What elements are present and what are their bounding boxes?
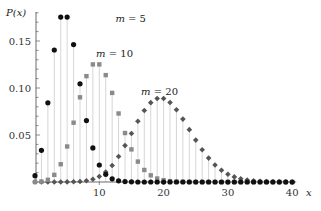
diamond-marker [109,163,115,169]
circle-marker [277,179,282,184]
square-marker [52,173,56,177]
diamond-marker [142,108,148,114]
square-marker [84,74,88,78]
series-label: m = 10 [96,48,133,59]
diamond-marker [90,176,96,182]
diamond-marker [58,179,64,185]
square-marker [97,62,101,66]
circle-marker [245,179,250,184]
circle-marker [142,179,147,184]
square-marker [33,180,37,184]
square-marker [65,144,69,148]
square-marker [59,162,63,166]
circle-marker [71,42,76,47]
x-axis-title: x [306,187,312,198]
circle-marker [116,178,121,183]
diamond-marker [148,100,154,106]
diamond-marker [193,137,199,143]
circle-marker [290,179,295,184]
circle-marker [45,100,50,105]
square-marker [110,91,114,95]
diamond-marker [135,118,141,124]
circle-marker [264,179,269,184]
y-tick-label: 0.15 [9,36,31,47]
square-marker [39,179,43,183]
circle-marker [167,179,172,184]
circle-marker [174,179,179,184]
diamond-marker [212,162,218,168]
circle-marker [219,179,224,184]
diamond-marker [187,127,193,133]
diamond-marker [199,147,205,153]
circle-marker [200,179,205,184]
diamond-marker [129,131,135,137]
square-marker [104,73,108,77]
circle-marker [84,118,89,123]
diamond-marker [122,143,128,149]
square-marker [78,95,82,99]
circle-marker [58,14,63,19]
circle-marker [77,81,82,86]
square-marker [142,168,146,172]
circle-marker [232,179,237,184]
circle-marker [52,47,57,52]
diamond-marker [232,174,238,180]
square-marker [71,120,75,124]
diamond-marker [84,178,90,184]
circle-marker [90,145,95,150]
circle-marker [251,179,256,184]
circle-marker [32,173,37,178]
square-marker [91,62,95,66]
square-marker [149,173,153,177]
y-axis-title: P(x) [5,7,26,18]
circle-marker [39,148,44,153]
x-tick-label: 20 [157,187,170,198]
diamond-marker [51,179,57,185]
square-marker [116,111,120,115]
diamond-marker [77,179,83,185]
y-tick-label: 0.05 [9,130,31,141]
diamond-marker [174,107,180,113]
poisson-chart: 0.050.100.1510203040xP(x)m = 20m = 10m =… [0,0,321,211]
circle-marker [155,179,160,184]
circle-marker [148,179,153,184]
circle-marker [212,179,217,184]
diamond-marker [225,171,231,177]
square-marker [129,147,133,151]
diamond-marker [219,167,225,173]
y-tick-label: 0.10 [9,83,31,94]
diamond-marker [180,116,186,122]
diamond-marker [71,179,77,185]
circle-marker [270,179,275,184]
circle-marker [122,179,127,184]
circle-marker [103,172,108,177]
square-marker [46,178,50,182]
circle-marker [187,179,192,184]
circle-marker [65,14,70,19]
x-tick-label: 30 [222,187,235,198]
circle-marker [180,179,185,184]
circle-marker [110,176,115,181]
circle-marker [97,162,102,167]
x-tick-label: 40 [286,187,299,198]
square-marker [123,131,127,135]
series-label: m = 20 [141,86,178,97]
diamond-marker [167,100,173,106]
circle-marker [129,179,134,184]
square-marker [136,159,140,163]
diamond-marker [116,154,122,160]
circle-marker [257,179,262,184]
diamond-marker [64,179,70,185]
circle-marker [283,179,288,184]
circle-marker [161,179,166,184]
circle-marker [225,179,230,184]
diamond-marker [97,174,103,180]
circle-marker [193,179,198,184]
circle-marker [135,179,140,184]
series-label: m = 5 [115,13,146,24]
labels: 0.050.100.1510203040xP(x)m = 20m = 10m =… [5,7,312,198]
x-tick-label: 10 [93,187,106,198]
circle-marker [206,179,211,184]
circle-marker [238,179,243,184]
diamond-marker [206,155,212,161]
